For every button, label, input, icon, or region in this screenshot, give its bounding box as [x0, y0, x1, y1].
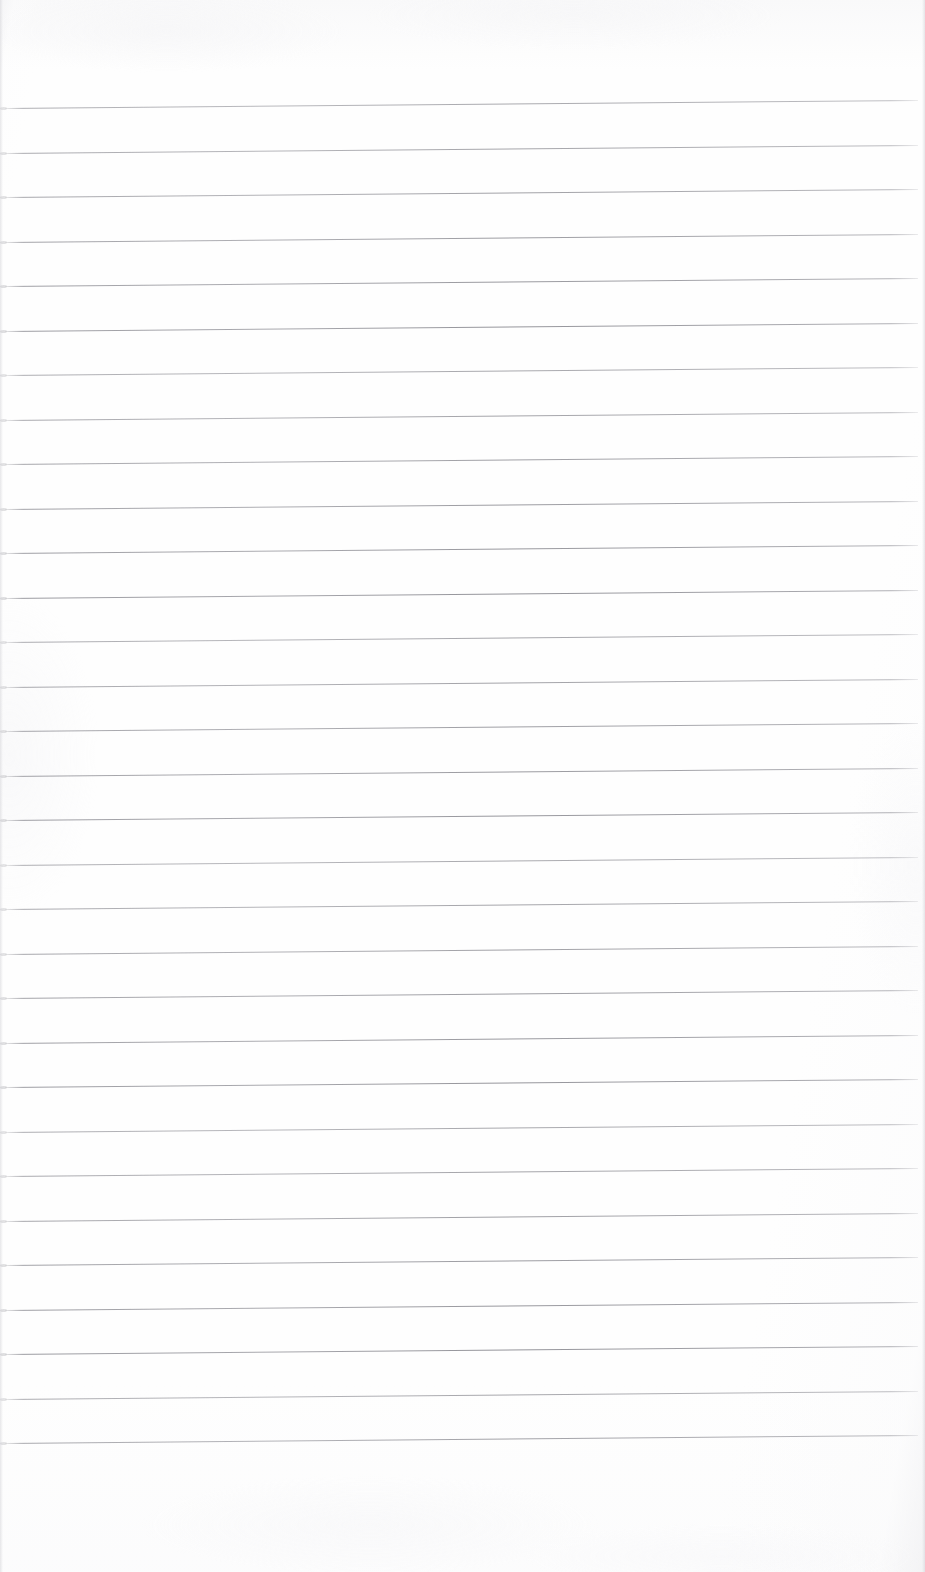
lined-paper-page: [0, 0, 925, 1572]
paper-sheet: [0, 0, 925, 1572]
